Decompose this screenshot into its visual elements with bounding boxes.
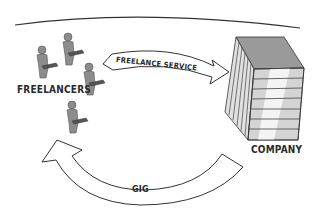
person-with-laptop-icon bbox=[67, 101, 88, 133]
person-with-laptop-icon bbox=[63, 33, 84, 65]
company-label: COMPANY bbox=[251, 144, 302, 155]
freelancer-figures bbox=[37, 33, 105, 133]
diagram-canvas: FREELANCERS COMPANY FREELANCE SERVICE GI… bbox=[0, 0, 315, 214]
freelancers-label: FREELANCERS bbox=[17, 84, 91, 95]
office-building-icon bbox=[225, 37, 304, 140]
horizon-arc bbox=[15, 17, 300, 28]
gig-arrow bbox=[42, 140, 243, 205]
person-with-laptop-icon bbox=[37, 46, 58, 78]
diagram-graphics bbox=[0, 0, 315, 214]
gig-label: GIG bbox=[132, 184, 149, 194]
